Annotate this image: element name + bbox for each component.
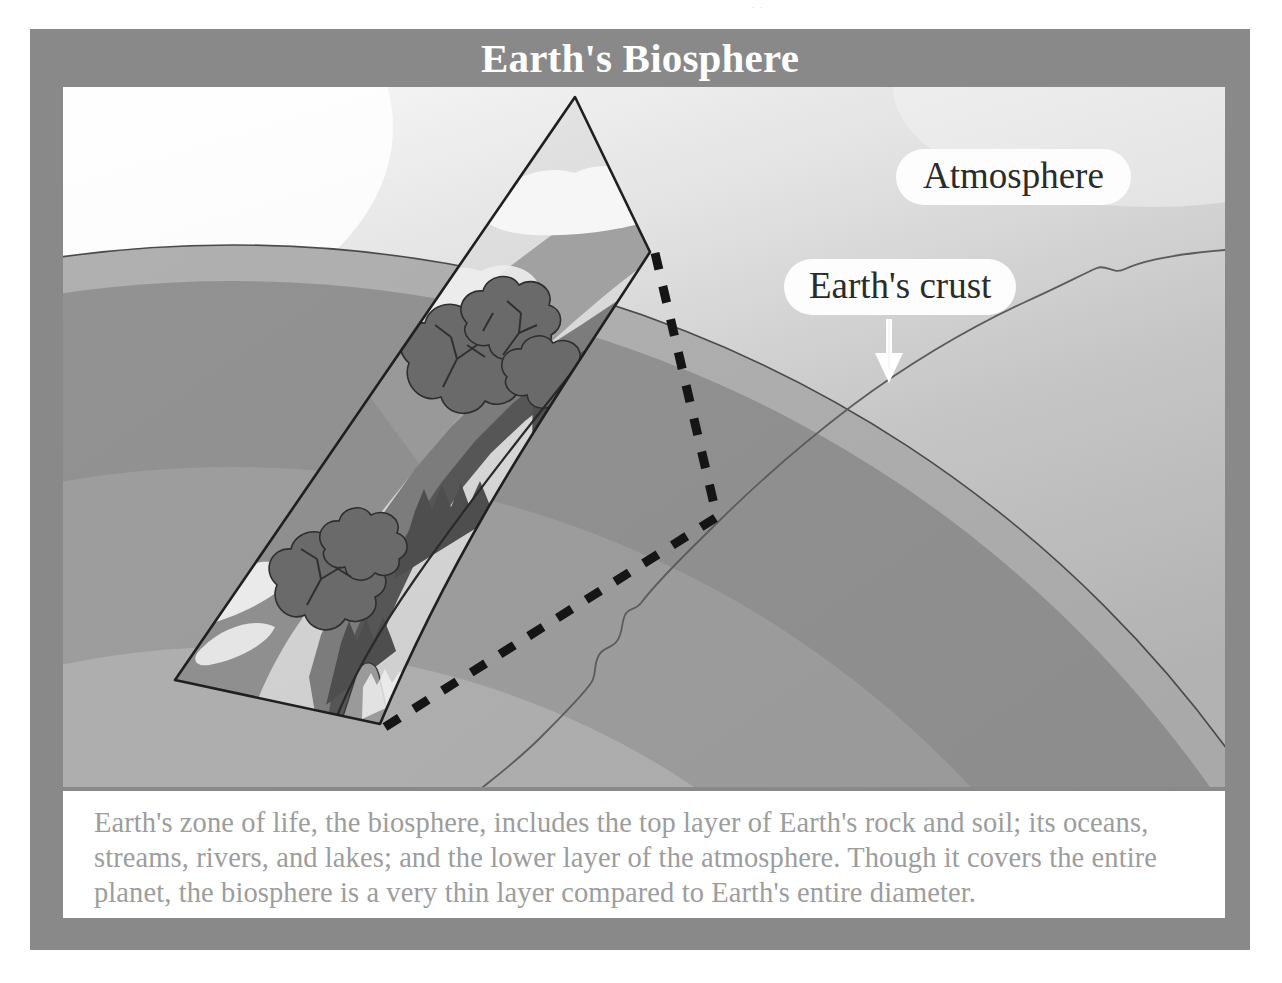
atmosphere-label: Atmosphere [896, 149, 1131, 205]
figure-frame: Earth's Biosphere [30, 29, 1250, 950]
illustration-panel: Atmosphere Earth's crust [63, 87, 1225, 787]
figure-caption: Earth's zone of life, the biosphere, inc… [94, 805, 1194, 910]
scan-artifact: .. [752, 0, 822, 8]
caption-panel: Earth's zone of life, the biosphere, inc… [63, 791, 1225, 918]
figure-title: Earth's Biosphere [30, 29, 1250, 87]
earths-crust-label: Earth's crust [784, 259, 1016, 315]
